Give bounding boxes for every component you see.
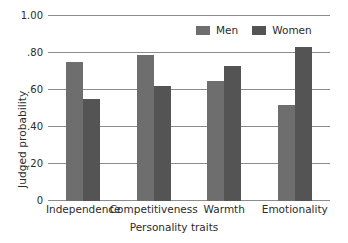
bar-women-emotionality (295, 47, 312, 201)
y-axis-tick-label: .40 (27, 121, 43, 132)
bars-layer (48, 16, 330, 201)
legend-swatch-icon (196, 26, 210, 35)
legend-item-men: Men (196, 25, 238, 36)
bar-chart: Judged probability 0.20.40.60.801.00 Ind… (0, 0, 348, 243)
bar-men-warmth (207, 81, 224, 201)
bar-group (207, 16, 241, 201)
y-axis-tick-label: .80 (27, 47, 43, 58)
x-axis-tick-label: Emotionality (262, 203, 328, 215)
bar-women-independence (83, 99, 100, 201)
y-axis-tick-label: .60 (27, 84, 43, 95)
bar-men-independence (66, 62, 83, 201)
x-axis-tick-label: Competitiveness (110, 203, 198, 215)
bar-men-competitiveness (137, 55, 154, 201)
plot-area: 0.20.40.60.801.00 (48, 16, 330, 201)
bar-women-competitiveness (154, 86, 171, 201)
bar-men-emotionality (278, 105, 295, 201)
x-axis-title: Personality traits (0, 221, 348, 233)
legend-item-women: Women (252, 25, 312, 36)
legend-label: Women (272, 25, 312, 36)
legend-label: Men (216, 25, 238, 36)
x-axis-tick-label: Warmth (204, 203, 245, 215)
x-axis-tick-labels: IndependenceCompetitivenessWarmthEmotion… (0, 203, 348, 219)
bar-group (66, 16, 100, 201)
bar-women-warmth (224, 66, 241, 201)
y-axis-tick-label: 1.00 (21, 10, 43, 21)
bar-group (137, 16, 171, 201)
legend: MenWomen (196, 25, 312, 36)
bar-group (278, 16, 312, 201)
legend-swatch-icon (252, 26, 266, 35)
y-axis-tick-label: .20 (27, 158, 43, 169)
